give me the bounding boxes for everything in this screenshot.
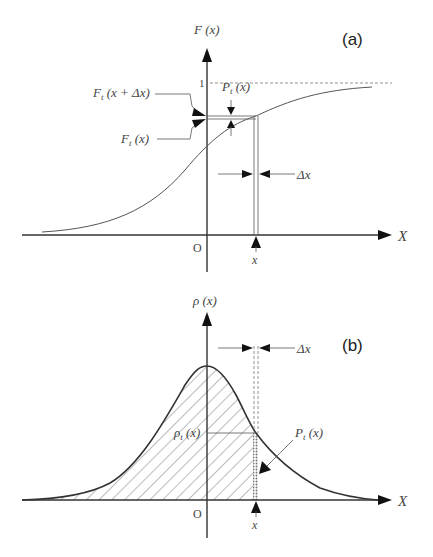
ft-x-plus-dx-label: Ft (x + Δx)	[92, 85, 150, 102]
x-axis-arrow-icon	[378, 495, 392, 505]
x-marker-label-b: x	[251, 518, 258, 532]
y-axis-arrow-icon	[202, 48, 212, 62]
origin-label-b: O	[193, 507, 202, 521]
delta-x-label-b: Δx	[296, 341, 311, 356]
x-axis-label-a: X	[397, 228, 408, 244]
x-axis-arrow-icon	[378, 230, 392, 240]
panel-a-label: (a)	[342, 30, 363, 49]
pt-label-b: Pt (x)	[294, 425, 323, 442]
x-axis-label-b: X	[397, 493, 408, 509]
dx-right-arrow-icon	[242, 170, 253, 178]
pt-down-arrow-icon	[227, 107, 235, 115]
panel-b-label: (b)	[342, 336, 363, 355]
rho-t-label: ρt (x)	[173, 425, 200, 442]
ft-x-plus-dx-arrow-icon	[192, 108, 206, 116]
one-tick-label: 1	[199, 77, 205, 89]
pt-strip	[253, 433, 258, 500]
y-axis-label-b: ρ (x)	[192, 293, 217, 308]
pt-arrow-icon	[259, 461, 271, 474]
diagram-canvas: (a) F (x) X O 1 Pt (x) Ft (x + Δx) Ft (	[0, 0, 433, 557]
panel-a-cdf: (a) F (x) X O 1 Pt (x) Ft (x + Δx) Ft (	[22, 22, 408, 272]
origin-label-a: O	[193, 241, 202, 255]
y-axis-arrow-icon	[202, 312, 212, 326]
dx-right-arrow-icon	[242, 344, 253, 352]
x-marker-label-a: x	[251, 253, 258, 267]
panel-b-pdf: (b) ρ (x) X O ρt (x) Δx Pt (x)	[22, 293, 408, 538]
delta-x-label-a: Δx	[296, 167, 311, 182]
pt-label-a: Pt (x)	[221, 79, 250, 96]
y-axis-label-a: F (x)	[193, 22, 220, 37]
ft-x-label: Ft (x)	[120, 131, 149, 148]
